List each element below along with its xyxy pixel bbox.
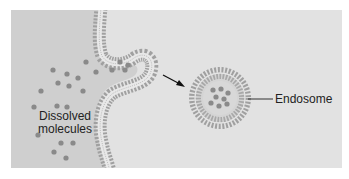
dissolved-molecules-label: Dissolved molecules [38, 110, 92, 136]
diagram-canvas [0, 0, 349, 179]
endosome-label: Endosome [275, 93, 332, 106]
dissolved-label-line2: molecules [38, 123, 92, 136]
endocytosis-diagram: Dissolved molecules Endosome [0, 0, 349, 179]
